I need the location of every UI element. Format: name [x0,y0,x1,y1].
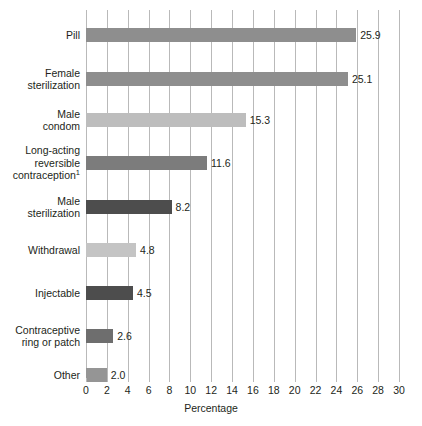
bar-value-label: 25.1 [348,73,372,85]
bar-value-label: 11.6 [207,157,231,169]
category-label-line: Other [0,369,80,382]
tick-mark-2 [107,378,108,382]
category-label: Injectable [0,287,80,300]
bar-row: 11.6 [86,156,399,170]
tick-label-8: 8 [167,384,173,396]
tick-label-10: 10 [184,384,196,396]
gridline-0 [86,10,87,378]
bar-row: 4.5 [86,286,399,300]
bar-value-label: 4.8 [136,244,155,256]
gridline-14 [232,10,233,378]
gridline-26 [357,10,358,378]
tick-mark-18 [274,378,275,382]
category-label-line: contraception1 [0,169,80,182]
tick-label-28: 28 [372,384,384,396]
tick-label-16: 16 [247,384,259,396]
category-label: Withdrawal [0,244,80,257]
category-label-line: Male [0,195,80,208]
tick-mark-14 [232,378,233,382]
gridline-28 [378,10,379,378]
tick-label-22: 22 [310,384,322,396]
tick-mark-28 [378,378,379,382]
tick-label-4: 4 [125,384,131,396]
bar-value-label: 25.9 [356,29,380,41]
bar-value-label: 8.2 [172,201,191,213]
bar [86,243,136,257]
bar [86,329,113,343]
category-label-line: Long-acting [0,144,80,157]
bar-row: 25.1 [86,72,399,86]
category-label-line: condom [0,120,80,133]
category-label-line: sterilization [0,79,80,92]
gridline-18 [274,10,275,378]
tick-mark-20 [295,378,296,382]
tick-label-24: 24 [331,384,343,396]
gridline-4 [128,10,129,378]
bar-value-label: 2.6 [113,330,132,342]
tick-mark-16 [253,378,254,382]
bar-value-label: 4.5 [133,287,152,299]
category-label-line: Female [0,67,80,80]
tick-mark-24 [336,378,337,382]
tick-mark-6 [149,378,150,382]
bar-row: 25.9 [86,28,399,42]
tick-label-26: 26 [351,384,363,396]
x-axis-title: Percentage [0,402,422,414]
gridline-2 [107,10,108,378]
tick-label-6: 6 [146,384,152,396]
bar-row: 8.2 [86,200,399,214]
category-axis-labels: PillFemalesterilizationMalecondomLong-ac… [0,0,80,426]
bar [86,368,107,382]
gridline-22 [316,10,317,378]
gridline-8 [169,10,170,378]
bar-row: 15.3 [86,113,399,127]
tick-mark-12 [211,378,212,382]
bar [86,200,172,214]
bar-row: 2.6 [86,329,399,343]
bar [86,156,207,170]
bar [86,28,356,42]
bar-value-label: 15.3 [246,114,270,126]
category-label-line: Injectable [0,287,80,300]
category-label-line: Male [0,108,80,121]
plot-area: 25.925.115.311.68.24.84.52.62.0 [86,10,399,378]
gridline-12 [211,10,212,378]
gridline-6 [149,10,150,378]
tick-label-30: 30 [393,384,405,396]
tick-mark-8 [169,378,170,382]
gridline-10 [190,10,191,378]
category-label-line: reversible [0,157,80,170]
gridline-16 [253,10,254,378]
tick-mark-4 [128,378,129,382]
tick-mark-0 [86,378,87,382]
gridline-24 [336,10,337,378]
bar [86,113,246,127]
category-label-line: sterilization [0,207,80,220]
tick-label-20: 20 [289,384,301,396]
category-label-line: ring or patch [0,336,80,349]
bar-row: 2.0 [86,368,399,382]
gridline-30 [399,10,400,378]
tick-label-12: 12 [205,384,217,396]
bar [86,72,348,86]
category-label: Pill [0,29,80,42]
tick-label-0: 0 [83,384,89,396]
bar [86,286,133,300]
tick-label-18: 18 [268,384,280,396]
category-label: Contraceptivering or patch [0,324,80,349]
category-label-line: Withdrawal [0,244,80,257]
category-label: Femalesterilization [0,67,80,92]
tick-mark-30 [399,378,400,382]
bar-row: 4.8 [86,243,399,257]
category-label-line: Pill [0,29,80,42]
gridline-20 [295,10,296,378]
tick-mark-22 [316,378,317,382]
category-label: Long-actingreversiblecontraception1 [0,144,80,182]
category-label: Malecondom [0,108,80,133]
tick-mark-10 [190,378,191,382]
tick-mark-26 [357,378,358,382]
bar-value-label: 2.0 [107,369,126,381]
tick-label-14: 14 [226,384,238,396]
tick-label-2: 2 [104,384,110,396]
bar-chart: PillFemalesterilizationMalecondomLong-ac… [0,0,422,426]
